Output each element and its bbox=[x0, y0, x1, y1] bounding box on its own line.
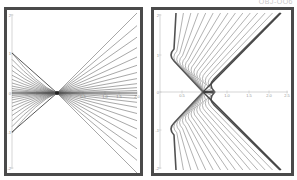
figure-caption: OBJ-OO6 bbox=[259, 0, 293, 5]
left-plot-panel: 0.51.01.52.0210-1-2 bbox=[4, 7, 143, 176]
right-plot-panel: 0.51.01.52.02.5210-1-2 bbox=[151, 7, 294, 176]
svg-text:2.5: 2.5 bbox=[284, 93, 290, 98]
svg-text:1.5: 1.5 bbox=[246, 93, 252, 98]
svg-text:1.0: 1.0 bbox=[224, 93, 230, 98]
svg-text:0.5: 0.5 bbox=[179, 93, 185, 98]
left-line-chart: 0.51.01.52.0210-1-2 bbox=[7, 10, 140, 173]
right-line-chart: 0.51.01.52.02.5210-1-2 bbox=[154, 10, 291, 173]
svg-text:2.0: 2.0 bbox=[266, 93, 272, 98]
